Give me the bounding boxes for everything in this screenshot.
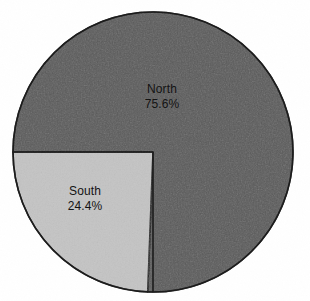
pie-chart-canvas	[0, 0, 310, 301]
pie-chart-figure: North 75.6% South 24.4%	[0, 0, 310, 301]
pie-slice-south[interactable]	[13, 152, 153, 292]
